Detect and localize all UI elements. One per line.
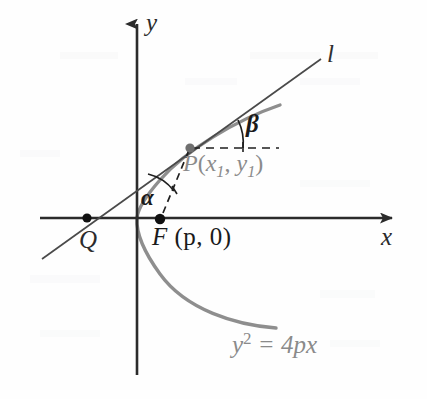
point-p-name: P xyxy=(183,150,198,176)
parabola-diagram-svg xyxy=(0,0,427,399)
equation-base: y xyxy=(232,331,243,358)
angle-beta-label: β xyxy=(246,111,259,136)
line-l-label: l xyxy=(327,41,334,66)
parabola-equation-label: y2 = 4px xyxy=(232,330,317,357)
point-p-label: P(x1, y1) xyxy=(183,151,263,180)
point-q-marker xyxy=(82,213,91,222)
x-axis-label: x xyxy=(381,224,392,249)
point-f-name: F xyxy=(152,223,168,250)
point-f-label: F (p, 0) xyxy=(152,224,232,249)
paper-texture xyxy=(0,0,427,399)
angle-alpha-label: α xyxy=(141,186,154,209)
equation-rhs: = 4px xyxy=(258,331,317,358)
point-q-label: Q xyxy=(79,227,97,252)
figure-canvas: y x l Q F (p, 0) P(x1, y1) α β y2 = 4px xyxy=(0,0,427,399)
equation-exponent: 2 xyxy=(243,329,252,348)
y-axis-label: y xyxy=(146,10,157,35)
point-f-coords: (p, 0) xyxy=(175,223,232,250)
